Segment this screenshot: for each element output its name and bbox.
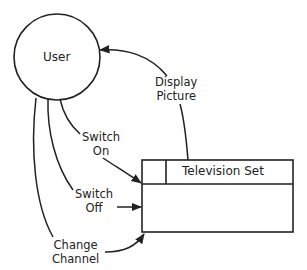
flow-label-switch-on: Switch On xyxy=(82,130,120,158)
user-label: User xyxy=(43,50,70,64)
diagram-canvas xyxy=(0,0,307,270)
flow-label-change-channel: Change Channel xyxy=(52,238,99,266)
flow-change-channel-arrow xyxy=(105,234,144,252)
flow-display-picture-arrow xyxy=(180,104,188,160)
flow-label-line1: Switch xyxy=(75,187,113,201)
flow-change-channel-line xyxy=(34,98,53,237)
flow-label-display-picture: Display Picture xyxy=(155,75,197,103)
television-set-label: Television Set xyxy=(182,164,264,178)
flow-label-line2: Channel xyxy=(52,252,99,266)
flow-label-line2: On xyxy=(82,144,120,158)
flow-switch-on-arrow xyxy=(103,158,141,183)
flow-switch-on-line xyxy=(60,99,80,134)
flow-label-line1: Display xyxy=(155,75,197,89)
flow-label-line1: Change xyxy=(52,238,99,252)
flow-label-line1: Switch xyxy=(82,130,120,144)
flow-label-line2: Picture xyxy=(155,89,197,103)
flow-switch-off-line xyxy=(48,99,73,190)
flow-display-picture-arrow-top xyxy=(100,50,167,76)
flow-label-line2: Off xyxy=(75,201,113,215)
flow-label-switch-off: Switch Off xyxy=(75,187,113,215)
